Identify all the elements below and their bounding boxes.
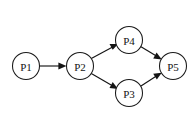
node-p2-label: P2 <box>74 61 86 73</box>
edge-p4-p5 <box>141 47 162 60</box>
node-p3-label: P3 <box>123 88 135 100</box>
edge-p3-p5-line <box>141 76 158 87</box>
node-group: P1 P2 P4 P3 P5 <box>13 27 187 107</box>
edge-p4-p5-arrowhead <box>153 53 162 60</box>
node-p2[interactable]: P2 <box>67 53 94 80</box>
node-p1[interactable]: P1 <box>13 53 40 80</box>
edge-p1-p2-arrowhead <box>58 63 66 70</box>
diagram-canvas: P1 P2 P4 P3 P5 <box>0 0 194 116</box>
node-p4-label: P4 <box>123 35 135 47</box>
edge-p1-p2 <box>40 63 67 70</box>
edge-p3-p5-arrowhead <box>153 73 162 80</box>
edge-p2-p3 <box>91 73 118 89</box>
edge-p2-p4-line <box>91 46 113 58</box>
edge-p4-p5-line <box>141 47 158 57</box>
edge-p2-p3-line <box>91 73 113 86</box>
edge-p2-p4 <box>91 44 118 59</box>
node-p3[interactable]: P3 <box>116 80 143 107</box>
node-p1-label: P1 <box>20 61 32 73</box>
edge-group <box>40 44 162 89</box>
node-p5-label: P5 <box>167 61 179 73</box>
diagram-svg: P1 P2 P4 P3 P5 <box>0 0 194 116</box>
node-p4[interactable]: P4 <box>116 27 143 54</box>
edge-p3-p5 <box>141 73 162 87</box>
node-p5[interactable]: P5 <box>160 53 187 80</box>
